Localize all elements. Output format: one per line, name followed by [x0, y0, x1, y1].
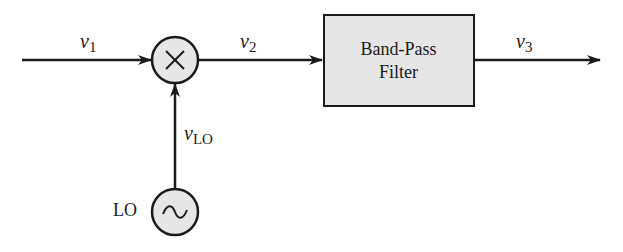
- v3-label: v3: [516, 30, 532, 56]
- v1-label: v1: [80, 30, 96, 56]
- filter-label-line1: Band-Pass: [361, 38, 437, 61]
- oscillator-label: LO: [113, 200, 137, 221]
- filter-label-line2: Filter: [379, 61, 418, 84]
- filter-label: Band-Pass Filter: [323, 15, 474, 106]
- v2-label: v2: [240, 30, 256, 56]
- vlo-label: vLO: [184, 122, 213, 148]
